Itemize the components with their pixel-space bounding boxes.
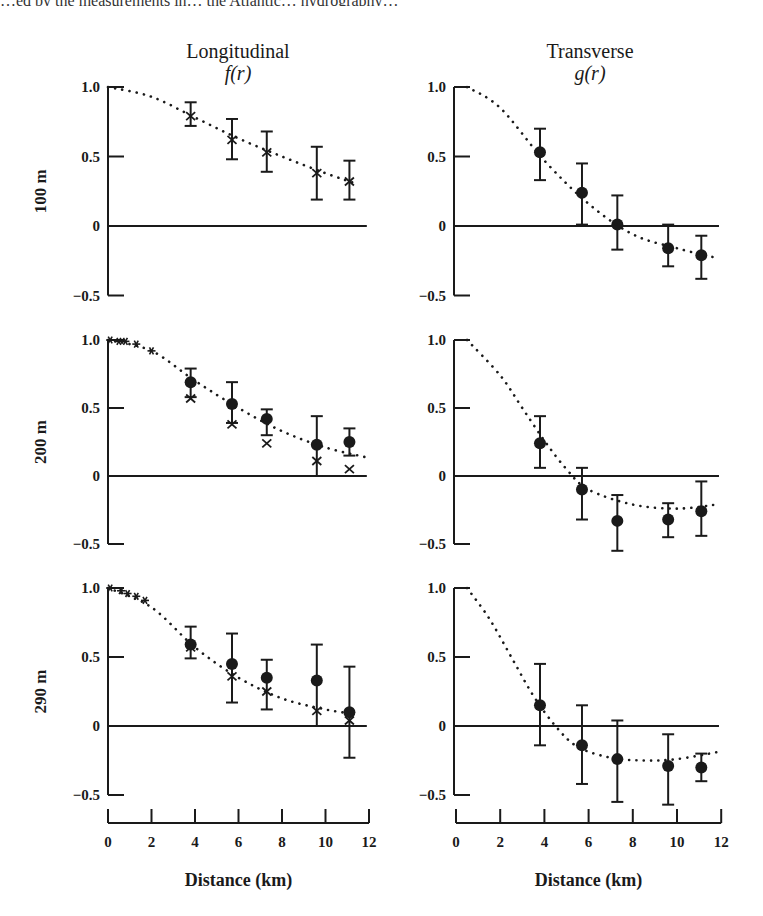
x-tick-label: 12 [714,834,729,850]
data-point-dot [534,437,546,449]
y-tick-label: −0.5 [73,787,100,803]
x-axis-label: Distance (km) [185,870,292,891]
x-tick-label: 2 [496,834,504,850]
data-point-dot [576,484,588,496]
y-tick-label: 0 [93,468,101,484]
row-label-depth: 290 m [31,670,50,714]
y-tick-label: 0 [439,468,447,484]
data-point-dot [695,761,707,773]
data-point-dot [261,413,273,425]
fit-curve [467,87,717,258]
x-tick-label: 8 [278,834,286,850]
fit-curve [467,588,717,761]
x-tick-label: 6 [235,834,243,850]
y-tick-label: 0.5 [427,400,446,416]
x-tick-label: 10 [318,834,333,850]
data-point-dot [311,439,323,451]
y-tick-label: 1.0 [81,79,100,95]
fit-curve [108,340,365,457]
data-point-cross [345,465,354,473]
y-tick-label: 0.5 [81,400,100,416]
y-tick-label: 0 [93,718,101,734]
y-tick-label: −0.5 [73,288,100,304]
chart-panel: 1.00.50−0.5 [419,332,719,552]
data-point-dot [662,760,674,772]
y-tick-label: 1.0 [81,332,100,348]
chart-panel: 1.00.50−0.5100 m [31,79,367,304]
data-point-dot [226,658,238,670]
x-axis: 024681012Distance (km) [104,809,376,891]
data-point-dot [343,436,355,448]
fit-curve [108,588,352,714]
data-point-dot [576,739,588,751]
chart-figure: 1.00.50−0.5100 m1.00.50−0.51.00.50−0.520… [0,0,763,916]
y-tick-label: −0.5 [73,536,100,552]
y-tick-label: 1.0 [427,79,446,95]
y-tick-label: 0 [93,218,101,234]
data-point-dot [611,515,623,527]
x-axis: 024681012Distance (km) [452,809,728,891]
y-tick-label: 0.5 [81,649,100,665]
x-axis-label: Distance (km) [535,870,642,891]
row-label-depth: 100 m [31,169,50,213]
x-tick-label: 10 [670,834,685,850]
x-tick-label: 2 [148,834,156,850]
row-label-depth: 200 m [31,420,50,464]
chart-panel: 1.00.50−0.5 [419,79,719,304]
x-tick-label: 4 [541,834,549,850]
y-tick-label: 0.5 [427,149,446,165]
data-point-dot [226,398,238,410]
data-point-cross [262,439,271,447]
data-point-dot [261,672,273,684]
data-point-dot [662,514,674,526]
fit-curve [467,340,717,509]
chart-panel: 1.00.50−0.5290 m [31,580,367,803]
y-tick-label: 0 [439,218,447,234]
data-point-dot [185,376,197,388]
x-tick-label: 4 [191,834,199,850]
data-point-dot [311,674,323,686]
x-tick-label: 12 [362,834,377,850]
y-tick-label: 0.5 [427,649,446,665]
y-tick-label: 0 [439,718,447,734]
chart-panel: 1.00.50−0.5 [419,580,719,805]
y-tick-label: −0.5 [419,536,446,552]
y-tick-label: 0.5 [81,149,100,165]
x-tick-label: 0 [104,834,112,850]
chart-panel: 1.00.50−0.5200 m [31,332,367,552]
y-tick-label: 1.0 [427,580,446,596]
y-tick-label: −0.5 [419,787,446,803]
x-tick-label: 8 [629,834,637,850]
y-tick-label: 1.0 [427,332,446,348]
x-tick-label: 6 [585,834,593,850]
x-tick-label: 0 [452,834,460,850]
y-tick-label: 1.0 [81,580,100,596]
y-tick-label: −0.5 [419,288,446,304]
